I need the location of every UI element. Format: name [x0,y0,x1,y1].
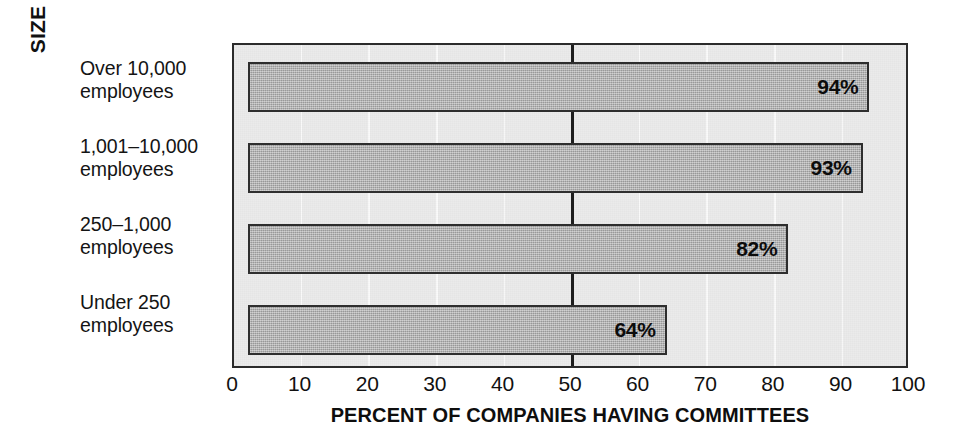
category-label-0-line1: Over 10,000 [80,57,228,80]
x-tick-label-100: 100 [878,372,938,396]
x-axis-title: PERCENT OF COMPANIES HAVING COMMITTEES [232,404,908,427]
category-label-2-line2: employees [80,236,228,259]
x-tick-label-10: 10 [270,372,330,396]
category-label-1-line2: employees [80,158,228,181]
bar-3: 64% [248,305,667,355]
bar-value-label-2: 82% [736,237,777,261]
bar-2: 82% [248,224,789,274]
x-tick-label-20: 20 [337,372,397,396]
bar-chart-figure: SIZE OF COMPANY Over 10,000 employees 1,… [0,0,969,445]
category-label-group: Over 10,000 employees 1,001–10,000 emplo… [80,43,228,368]
category-label-0-line2: employees [80,80,228,103]
bar-0: 94% [248,62,870,112]
x-tick-label-50: 50 [540,372,600,396]
x-tick-label-80: 80 [743,372,803,396]
x-tick-label-40: 40 [472,372,532,396]
category-label-2-line1: 250–1,000 [80,213,228,236]
category-label-3-line2: employees [80,314,228,337]
x-tick-label-70: 70 [675,372,735,396]
plot-area: 94%93%82%64% [232,43,908,368]
x-tick-label-60: 60 [608,372,668,396]
y-axis-title: SIZE OF COMPANY [18,0,58,100]
x-tick-label-90: 90 [810,372,870,396]
bar-value-label-3: 64% [614,318,655,342]
x-tick-label-30: 30 [405,372,465,396]
category-label-3-line1: Under 250 [80,291,228,314]
category-label-1: 1,001–10,000 employees [80,135,228,181]
bar-value-label-1: 93% [811,156,852,180]
category-label-3: Under 250 employees [80,291,228,337]
bar-value-label-0: 94% [817,75,858,99]
bar-1: 93% [248,143,863,193]
x-axis-tick-group: 0102030405060708090100 [232,372,908,400]
category-label-0: Over 10,000 employees [80,57,228,103]
category-label-2: 250–1,000 employees [80,213,228,259]
category-label-1-line1: 1,001–10,000 [80,135,228,158]
x-tick-label-0: 0 [202,372,262,396]
plot-inner: 94%93%82%64% [234,45,906,366]
